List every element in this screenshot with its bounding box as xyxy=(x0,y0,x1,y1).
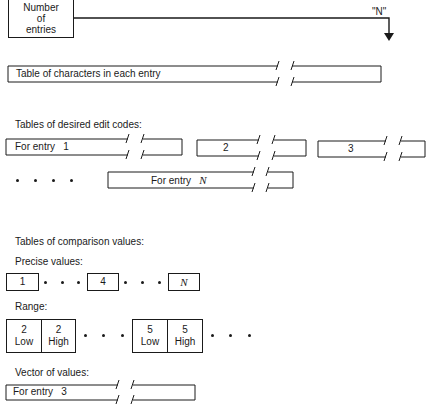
precise-value: 1 xyxy=(20,276,26,288)
ellipsis-dot xyxy=(121,334,124,337)
ellipsis-dot xyxy=(248,334,251,337)
entry-n-prefix: For entry xyxy=(151,175,191,186)
comparison-title: Tables of comparison values: xyxy=(15,236,144,248)
entry-1-label: For entry 1 xyxy=(15,141,69,153)
number-of-entries-box: Number of entries xyxy=(8,0,74,38)
number-box-line-3: entries xyxy=(26,24,56,35)
ellipsis-dot xyxy=(211,334,214,337)
range-pair-box: 5 Low 5 High xyxy=(132,319,203,353)
entry-3-label: 3 xyxy=(348,143,354,155)
precise-value-box: 4 xyxy=(87,273,119,291)
range-cell-word: High xyxy=(175,336,196,348)
ellipsis-dot xyxy=(52,179,55,182)
precise-value-box: N xyxy=(168,273,200,291)
precise-value: N xyxy=(180,276,187,288)
entry-n-label: For entry N xyxy=(151,174,207,187)
ellipsis-dot xyxy=(34,179,37,182)
range-cell: 5 Low xyxy=(133,320,168,352)
range-cell-word: Low xyxy=(15,336,33,348)
ellipsis-dot xyxy=(16,179,19,182)
range-cell-num: 2 xyxy=(21,324,27,336)
range-cell: 5 High xyxy=(168,320,202,352)
entry-2-label: 2 xyxy=(223,142,229,154)
arrow-label: "N" xyxy=(372,6,386,18)
ellipsis-dot xyxy=(141,281,144,284)
vector-number: 3 xyxy=(61,386,67,397)
range-cell-word: High xyxy=(48,336,69,348)
ellipsis-dot xyxy=(102,334,105,337)
entry-1-number: 1 xyxy=(63,141,69,152)
vector-label: Vector of values: xyxy=(15,367,89,379)
range-cell: 2 High xyxy=(42,320,75,352)
range-pair-box: 2 Low 2 High xyxy=(6,319,76,353)
ellipsis-dot xyxy=(77,281,80,284)
ellipsis-dot xyxy=(70,179,73,182)
range-cell: 2 Low xyxy=(7,320,42,352)
number-box-line-2: of xyxy=(37,13,45,24)
range-cell-num: 2 xyxy=(56,324,62,336)
ellipsis-dot xyxy=(44,281,47,284)
ellipsis-dot xyxy=(158,281,161,284)
precise-label: Precise values: xyxy=(15,256,83,268)
range-cell-num: 5 xyxy=(182,324,188,336)
number-box-line-1: Number xyxy=(23,2,59,13)
range-cell-num: 5 xyxy=(147,324,153,336)
ellipsis-dot xyxy=(61,281,64,284)
entry-1-prefix: For entry xyxy=(15,141,55,152)
range-cell-word: Low xyxy=(141,336,159,348)
precise-value-box: 1 xyxy=(6,273,39,291)
entry-n-var: N xyxy=(199,174,206,186)
ellipsis-dot xyxy=(124,281,127,284)
ellipsis-dot xyxy=(229,334,232,337)
ellipsis-dot xyxy=(84,334,87,337)
vector-entry-label: For entry 3 xyxy=(13,386,67,398)
vector-prefix: For entry xyxy=(13,386,53,397)
range-label: Range: xyxy=(15,301,47,313)
precise-value: 4 xyxy=(100,276,106,288)
char-table-label: Table of characters in each entry xyxy=(16,68,161,80)
edit-codes-title: Tables of desired edit codes: xyxy=(15,119,142,131)
